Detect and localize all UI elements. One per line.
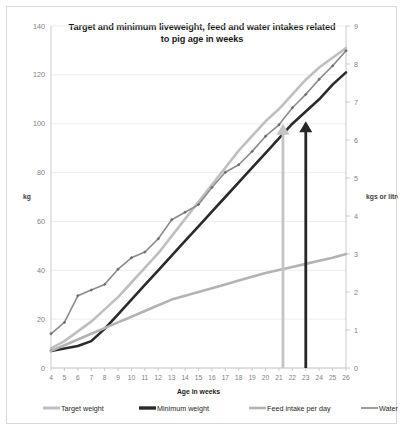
y2-axis-tick-label: 8 <box>354 60 358 69</box>
x-axis-tick-label: 7 <box>89 374 93 381</box>
y-axis-tick-label: 80 <box>37 168 45 177</box>
plot-area-wrapper: 0204060801001201400123456789456789101112… <box>7 7 396 423</box>
series-line-target-weight <box>51 48 346 348</box>
y-axis-tick-label: 120 <box>33 70 45 79</box>
x-axis-tick-label: 12 <box>155 374 163 381</box>
legend-label-target-weight: Target weight <box>61 404 104 413</box>
x-axis-tick-label: 16 <box>208 374 216 381</box>
x-axis-tick-label: 22 <box>289 374 297 381</box>
x-axis-tick-label: 5 <box>63 374 67 381</box>
x-axis-tick-label: 8 <box>103 374 107 381</box>
x-axis-tick-label: 19 <box>248 374 256 381</box>
x-axis-tick-label: 21 <box>275 374 283 381</box>
x-axis-tick-label: 10 <box>128 374 136 381</box>
y-axis-tick-label: 40 <box>37 266 45 275</box>
x-axis-tick-label: 24 <box>316 374 324 381</box>
x-axis-tick-label: 26 <box>342 374 350 381</box>
x-axis-tick-label: 9 <box>116 374 120 381</box>
legend-label-water-intake-per-day: Water intake per day <box>379 404 398 413</box>
line-chart: 0204060801001201400123456789456789101112… <box>7 7 398 425</box>
x-axis-tick-label: 11 <box>141 374 148 381</box>
x-axis-tick-label: 20 <box>262 374 270 381</box>
x-axis-tick-label: 17 <box>222 374 230 381</box>
y2-axis-tick-label: 2 <box>354 288 358 297</box>
x-axis-tick-label: 25 <box>329 374 337 381</box>
y2-axis-tick-label: 7 <box>354 98 358 107</box>
minimum-weight-arrow-head <box>299 121 312 132</box>
x-axis-tick-label: 13 <box>168 374 176 381</box>
x-axis-tick-label: 18 <box>235 374 243 381</box>
y2-axis-tick-label: 3 <box>354 250 358 259</box>
y2-axis-tick-label: 5 <box>354 174 358 183</box>
y2-axis-tick-label: 4 <box>354 212 358 221</box>
y2-axis-tick-label: 0 <box>354 364 358 373</box>
legend-label-feed-intake-per-day: Feed intake per day <box>267 404 331 413</box>
x-axis-tick-label: 14 <box>181 374 189 381</box>
y2-axis-tick-label: 1 <box>354 326 358 335</box>
x-axis-tick-label: 6 <box>76 374 80 381</box>
y-axis-tick-label: 140 <box>33 22 45 31</box>
x-axis-tick-label: 15 <box>195 374 203 381</box>
y-axis-tick-label: 100 <box>33 119 45 128</box>
y-axis-title: kg <box>23 193 31 201</box>
y-axis-tick-label: 60 <box>37 217 45 226</box>
y2-axis-tick-label: 9 <box>354 22 358 31</box>
y2-axis-tick-label: 6 <box>354 136 358 145</box>
chart-card: Target and minimum liveweight, feed and … <box>6 6 397 424</box>
legend-label-minimum-weight: Minimum weight <box>157 404 209 413</box>
y-axis-tick-label: 20 <box>37 315 45 324</box>
x-axis-tick-label: 4 <box>49 374 53 381</box>
x-axis-title: Age in weeks <box>177 388 220 396</box>
series-line-minimum-weight <box>51 72 346 350</box>
x-axis-tick-label: 23 <box>302 374 310 381</box>
y-axis-tick-label: 0 <box>41 364 45 373</box>
y2-axis-title: kgs or litres/day <box>366 193 398 201</box>
